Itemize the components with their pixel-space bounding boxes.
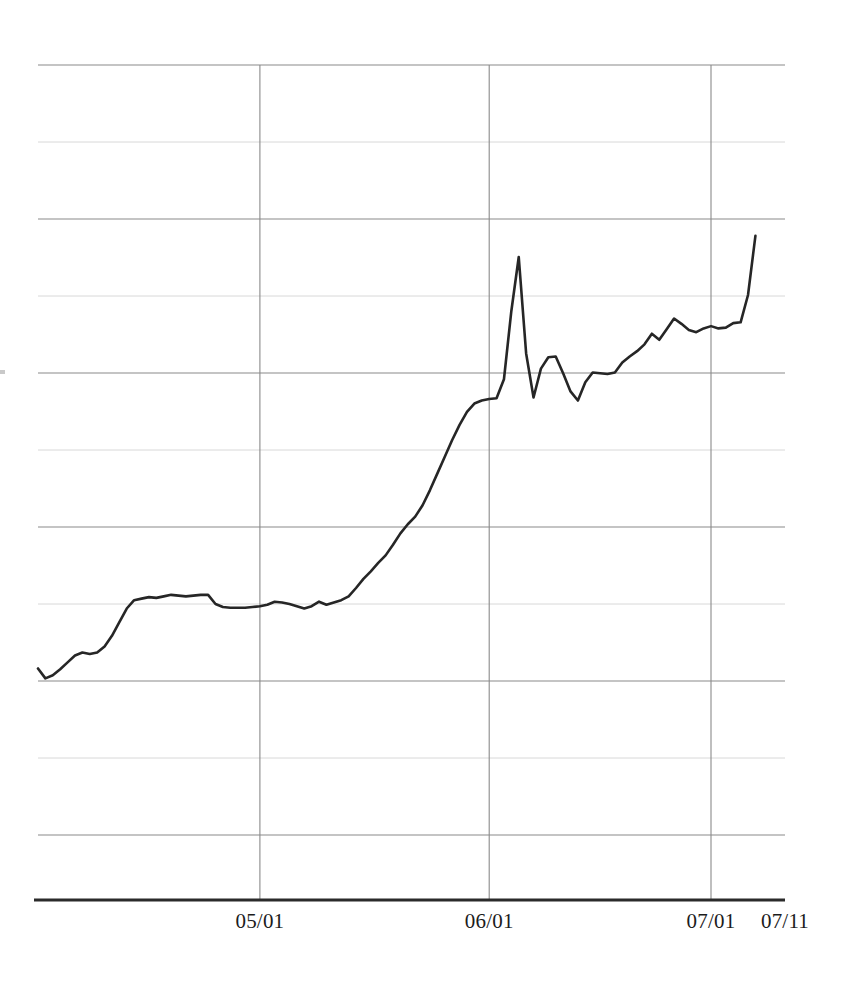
line-chart: 05/0106/0107/0107/11 xyxy=(0,0,846,999)
x-tick-label: 05/01 xyxy=(235,909,284,933)
chart-background xyxy=(0,0,846,999)
x-tick-label: 06/01 xyxy=(465,909,514,933)
x-tick-label: 07/01 xyxy=(687,909,736,933)
chart-canvas: 05/0106/0107/0107/11 xyxy=(0,0,846,999)
x-tick-label: 07/11 xyxy=(761,909,809,933)
